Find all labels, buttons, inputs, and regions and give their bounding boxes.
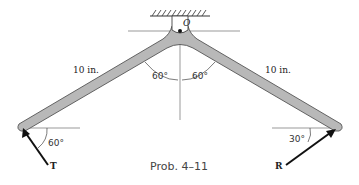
- force-T-angle-label: 60°: [48, 138, 64, 148]
- force-R-angle-label: 30°: [289, 134, 305, 144]
- left-arm-length-label: 10 in.: [73, 65, 99, 75]
- figure-caption: Prob. 4–11: [150, 160, 208, 173]
- ground-support: [150, 10, 210, 16]
- bell-crank-diagram: O 10 in. 10 in. 60° 60° 60° T 30° R Prob…: [0, 0, 359, 185]
- right-arm-length-label: 10 in.: [265, 65, 291, 75]
- pivot-label: O: [183, 18, 191, 28]
- reference-lines: [22, 31, 335, 128]
- left-arm-angle-label: 60°: [152, 71, 168, 81]
- pivot-pin-icon: [178, 29, 182, 33]
- force-T-arrow: [22, 128, 48, 165]
- force-T-label: T: [50, 161, 57, 171]
- force-R-angle-arc: [308, 128, 311, 142]
- force-R-label: R: [275, 161, 283, 171]
- right-arm-angle-label: 60°: [192, 71, 208, 81]
- force-T-angle-arc: [38, 128, 47, 148]
